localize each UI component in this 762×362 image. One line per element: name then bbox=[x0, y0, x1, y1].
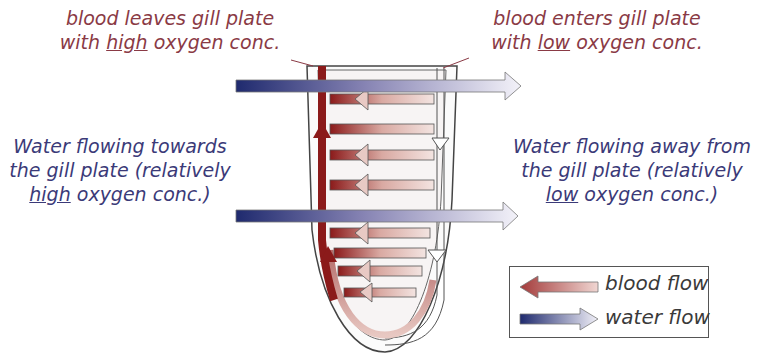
label-text: low oxygen conc.) bbox=[512, 182, 752, 206]
text: oxygen conc. bbox=[148, 31, 281, 53]
label-text: with high oxygen conc. bbox=[50, 30, 290, 54]
label-blood-leaves: blood leaves gill plate with high oxygen… bbox=[50, 6, 290, 54]
emphasis-text: high bbox=[106, 31, 147, 53]
label-text: high oxygen conc.) bbox=[0, 182, 240, 206]
emphasis-text: low bbox=[538, 31, 570, 53]
label-text: Water flowing away from bbox=[512, 134, 752, 158]
label-text: the gill plate (relatively bbox=[512, 158, 752, 182]
text: oxygen conc.) bbox=[71, 183, 211, 205]
label-text: blood enters gill plate bbox=[472, 6, 722, 30]
emphasis-text: low bbox=[546, 183, 578, 205]
legend-label-water: water flow bbox=[605, 305, 710, 329]
label-text: Water flowing towards bbox=[0, 134, 240, 158]
blood-flow-arrow-icon bbox=[518, 275, 600, 299]
leader-line-blood-leaves bbox=[291, 60, 313, 66]
emphasis-text: high bbox=[29, 183, 70, 205]
label-water-towards: Water flowing towards the gill plate (re… bbox=[0, 134, 240, 206]
text: with bbox=[491, 31, 537, 53]
label-text: the gill plate (relatively bbox=[0, 158, 240, 182]
text: oxygen conc. bbox=[570, 31, 703, 53]
label-text: with low oxygen conc. bbox=[472, 30, 722, 54]
legend: blood flow water flow bbox=[509, 266, 709, 338]
label-water-away: Water flowing away from the gill plate (… bbox=[512, 134, 752, 206]
gill-plate bbox=[307, 66, 457, 352]
text: oxygen conc.) bbox=[578, 183, 718, 205]
legend-label-blood: blood flow bbox=[605, 271, 708, 295]
label-blood-enters: blood enters gill plate with low oxygen … bbox=[472, 6, 722, 54]
label-text: blood leaves gill plate bbox=[50, 6, 290, 30]
water-flow-arrow-icon bbox=[518, 307, 600, 331]
text: with bbox=[60, 31, 106, 53]
